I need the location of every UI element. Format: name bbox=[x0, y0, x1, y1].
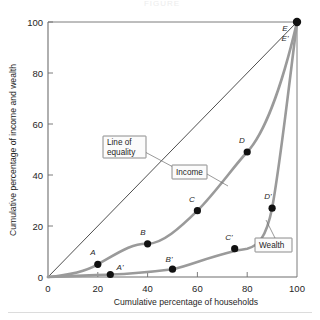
lorenz-curve-chart: 100 80 60 40 20 0 0 20 40 60 80 100 Cumu… bbox=[0, 0, 320, 320]
callout-income-label: Income bbox=[176, 168, 203, 177]
data-point-A-prime bbox=[107, 271, 114, 278]
data-label-A-prime: A' bbox=[116, 263, 124, 272]
x-tick-60: 60 bbox=[192, 283, 203, 294]
data-label-B-prime: B' bbox=[166, 255, 173, 264]
callout-equality-line2: equality bbox=[107, 148, 136, 157]
callout-line-of-equality: Line of equality bbox=[103, 136, 175, 168]
x-tick-100: 100 bbox=[289, 283, 305, 294]
data-point-B bbox=[144, 240, 151, 247]
y-axis-title: Cumulative percentage of income and weal… bbox=[8, 64, 18, 236]
y-tick-20: 20 bbox=[32, 221, 43, 232]
x-axis-tick-labels: 0 20 40 60 80 100 bbox=[45, 283, 305, 294]
x-tick-80: 80 bbox=[242, 283, 253, 294]
y-tick-40: 40 bbox=[32, 170, 43, 181]
data-label-A: A bbox=[89, 248, 95, 257]
data-label-D: D bbox=[239, 136, 245, 145]
data-point-C bbox=[194, 207, 201, 214]
y-tick-60: 60 bbox=[32, 119, 43, 130]
data-point-C-prime bbox=[231, 245, 238, 252]
x-tick-40: 40 bbox=[142, 283, 153, 294]
callout-income: Income bbox=[172, 165, 228, 186]
data-label-C-prime: C' bbox=[225, 233, 233, 242]
data-label-D-prime: D' bbox=[264, 192, 272, 201]
figure-container: FIGURE 100 80 60 40 20 0 bbox=[0, 0, 320, 320]
callout-wealth-label: Wealth bbox=[259, 241, 285, 250]
y-axis-ticks bbox=[48, 22, 53, 226]
x-axis-title: Cumulative percentage of households bbox=[114, 297, 258, 307]
data-point-A bbox=[94, 261, 101, 268]
data-point-D-prime bbox=[269, 205, 276, 212]
y-axis-tick-labels: 100 80 60 40 20 0 bbox=[27, 17, 43, 284]
y-tick-80: 80 bbox=[32, 68, 43, 79]
data-label-B: B bbox=[140, 228, 146, 237]
bottom-divider bbox=[8, 312, 312, 313]
data-point-D bbox=[244, 148, 251, 155]
data-label-C: C bbox=[189, 195, 195, 204]
callout-wealth: Wealth bbox=[255, 220, 292, 252]
x-tick-0: 0 bbox=[45, 283, 50, 294]
y-tick-100: 100 bbox=[27, 17, 43, 28]
x-tick-20: 20 bbox=[93, 283, 104, 294]
data-point-E bbox=[293, 18, 301, 26]
callout-equality-line1: Line of bbox=[107, 138, 132, 147]
data-label-E: E bbox=[282, 24, 288, 33]
data-point-B-prime bbox=[169, 266, 176, 273]
data-label-E-prime: E' bbox=[282, 34, 289, 43]
y-tick-0: 0 bbox=[38, 272, 43, 283]
